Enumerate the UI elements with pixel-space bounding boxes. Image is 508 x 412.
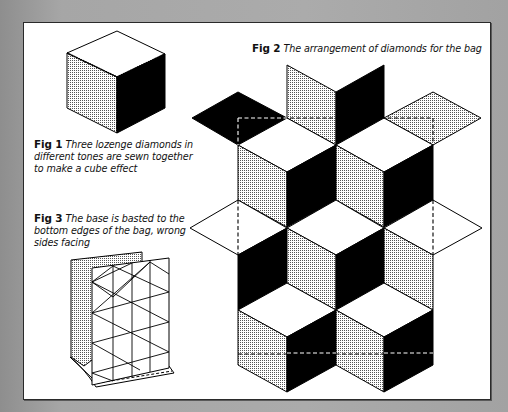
fig1-cube (67, 31, 165, 133)
fig2-arrangement (190, 65, 482, 392)
fig2-label: Fig 2 (252, 42, 280, 54)
fig1-label: Fig 1 (34, 138, 62, 150)
fig3-label: Fig 3 (34, 212, 62, 224)
fig3-caption: Fig 3 The base is basted to the bottom e… (34, 212, 199, 249)
fig2-caption: Fig 2 The arrangement of diamonds for th… (252, 42, 488, 55)
fig2-text: The arrangement of diamonds for the bag (283, 43, 481, 54)
fig3-bag (70, 252, 174, 387)
bag-front-panel (92, 258, 169, 385)
diagram-artwork (0, 0, 508, 412)
fig1-caption: Fig 1 Three lozenge diamonds in differen… (34, 138, 199, 175)
